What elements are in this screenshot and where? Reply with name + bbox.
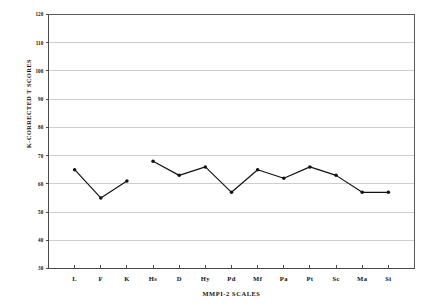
y-tick-label: 50: [38, 209, 44, 215]
x-tick-label-Sc: Sc: [332, 275, 339, 282]
x-tick-label-Pd: Pd: [227, 275, 235, 282]
y-axis-ticks: 30405060708090100110120: [35, 11, 48, 271]
y-tick-label: 110: [36, 40, 44, 46]
data-point-F: [99, 196, 103, 200]
data-point-Mf: [256, 168, 260, 172]
data-point-Sc: [334, 174, 338, 178]
y-tick-label: 120: [35, 11, 43, 17]
data-point-Hy: [204, 165, 208, 169]
data-point-Si: [387, 191, 391, 195]
data-point-Pd: [230, 191, 234, 195]
x-tick-label-Hs: Hs: [149, 275, 157, 282]
axis-frame: [49, 15, 415, 269]
plot-area: 30405060708090100110120 LFKHsDHyPdMfPaPt…: [0, 0, 429, 307]
data-point-Pt: [308, 165, 312, 169]
x-tick-label-Ma: Ma: [357, 275, 368, 282]
x-tick-label-D: D: [177, 275, 182, 282]
data-point-L: [73, 168, 77, 172]
data-point-Pa: [282, 176, 286, 180]
x-tick-label-F: F: [99, 275, 103, 282]
x-axis-ticks: LFKHsDHyPdMfPaPtScMaSi: [72, 265, 391, 282]
y-tick-label: 70: [38, 153, 44, 159]
x-tick-label-Hy: Hy: [201, 275, 210, 282]
y-tick-label: 40: [38, 237, 44, 243]
data-point-Hs: [151, 160, 155, 164]
y-tick-label: 30: [38, 265, 44, 271]
x-tick-label-L: L: [72, 275, 77, 282]
data-series-group: [73, 160, 390, 200]
gridlines-group: [49, 43, 415, 241]
y-tick-label: 90: [38, 96, 44, 102]
x-tick-label-K: K: [124, 275, 130, 282]
x-tick-label-Pa: Pa: [280, 275, 288, 282]
y-tick-label: 80: [38, 124, 44, 130]
y-tick-label: 100: [35, 68, 43, 74]
x-tick-label-Pt: Pt: [306, 275, 313, 282]
x-tick-label-Mf: Mf: [253, 275, 263, 282]
data-point-K: [125, 179, 128, 183]
plot-border: [49, 15, 415, 269]
x-tick-label-Si: Si: [385, 275, 391, 282]
data-point-D: [177, 174, 181, 178]
data-point-Ma: [360, 191, 364, 195]
mmpi-profile-chart: K-CORRECTED T SCORES MMPI-2 SCALES 30405…: [0, 0, 429, 307]
y-tick-label: 60: [38, 181, 44, 187]
series-line-segment-1: [153, 161, 388, 192]
